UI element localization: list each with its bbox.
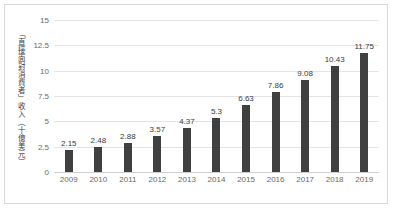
bar [331,66,339,172]
plot-area: 02.557.51012.515 2.152.482.883.574.375.3… [54,20,379,172]
bar [65,150,73,172]
y-axis-tick-label: 0 [45,168,49,177]
x-axis-tick-label: 2011 [119,175,136,184]
x-axis-tick-label: 2013 [178,175,196,184]
x-axis-tick-label: 2018 [326,175,344,184]
y-axis-tick-label: 5 [45,117,49,126]
bar-value-label: 2.15 [61,139,77,148]
y-axis-tick-label: 7.5 [38,92,49,101]
y-axis-title-text: 「直接面對消費者」收入（十億美元） [17,30,25,166]
bar-value-label: 4.37 [179,117,195,126]
bar-series: 2.152.482.883.574.375.36.637.869.0810.43… [54,20,379,172]
bar-slot: 3.57 [143,20,173,172]
y-axis-tick-label: 2.5 [38,142,49,151]
gridline [54,172,379,173]
x-axis-tick-label: 2009 [60,175,78,184]
bar-slot: 4.37 [172,20,202,172]
bar [301,80,309,172]
bar-slot: 10.43 [320,20,350,172]
bar-value-label: 10.43 [325,55,345,64]
bar-value-label: 2.88 [120,132,136,141]
bar [360,53,368,172]
bar-value-label: 7.86 [268,81,284,90]
x-axis-tick-label: 2017 [296,175,314,184]
bar-slot: 2.48 [84,20,114,172]
chart-container: 「直接面對消費者」收入（十億美元） 02.557.51012.515 2.152… [4,4,388,204]
bar [124,143,132,172]
y-axis-title: 「直接面對消費者」收入（十億美元） [13,23,29,173]
y-axis-tick-label: 10 [40,66,49,75]
bar-value-label: 3.57 [150,125,166,134]
y-axis-tick-label: 15 [40,16,49,25]
bar-value-label: 9.08 [297,69,313,78]
bar-slot: 5.3 [202,20,232,172]
bar-slot: 2.88 [113,20,143,172]
bar-value-label: 2.48 [91,136,107,145]
bar-value-label: 5.3 [211,107,222,116]
x-axis-tick-label: 2010 [89,175,107,184]
bar [272,92,280,172]
x-axis-tick-label: 2015 [237,175,255,184]
x-axis-tick-label: 2012 [149,175,167,184]
bar-slot: 11.75 [349,20,379,172]
bar [212,118,220,172]
x-axis-tick-label: 2019 [355,175,373,184]
bar [242,105,250,172]
x-axis-ticks: 2009201020112012201320142015201620172018… [54,175,379,189]
bar-slot: 6.63 [231,20,261,172]
bar [94,147,102,172]
bar-slot: 9.08 [290,20,320,172]
bar-value-label: 6.63 [238,94,254,103]
x-axis-tick-label: 2016 [267,175,285,184]
y-axis-tick-label: 12.5 [33,41,49,50]
bar [153,136,161,172]
bar [183,128,191,172]
x-axis-tick-label: 2014 [208,175,226,184]
bar-value-label: 11.75 [355,42,374,51]
bar-slot: 2.15 [54,20,84,172]
bar-slot: 7.86 [261,20,291,172]
